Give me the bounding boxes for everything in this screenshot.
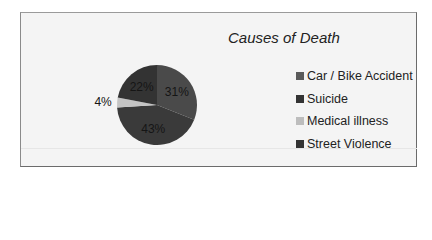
legend-item-car-bike-accident: Car / Bike Accident	[296, 65, 413, 88]
legend-label: Car / Bike Accident	[307, 69, 413, 83]
legend-label: Medical illness	[307, 114, 388, 128]
legend-swatch	[296, 95, 304, 103]
chart-legend: Car / Bike Accident Suicide Medical illn…	[296, 65, 413, 155]
legend-item-suicide: Suicide	[296, 88, 413, 111]
pie-data-label: 22%	[130, 80, 154, 94]
legend-label: Street Violence	[307, 137, 392, 151]
pie-data-label: 4%	[94, 95, 112, 109]
legend-label: Suicide	[307, 92, 348, 106]
legend-swatch	[296, 72, 304, 80]
legend-swatch	[296, 117, 304, 125]
pie-data-label: 31%	[165, 85, 189, 99]
pie-data-label: 43%	[141, 122, 165, 136]
legend-item-medical-illness: Medical illness	[296, 110, 413, 133]
legend-swatch	[296, 140, 304, 148]
legend-item-street-violence: Street Violence	[296, 133, 413, 156]
